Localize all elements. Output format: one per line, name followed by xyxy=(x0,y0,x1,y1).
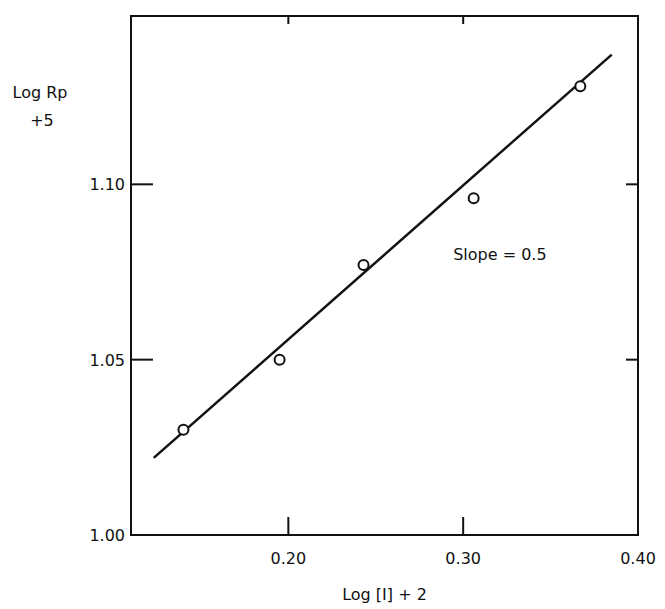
y-tick-label: 1.00 xyxy=(89,526,125,545)
data-point xyxy=(469,193,479,203)
chart: 0.200.300.401.001.051.10Slope = 0.5Log [… xyxy=(0,0,665,609)
x-tick-label: 0.20 xyxy=(271,549,307,568)
x-tick-label: 0.40 xyxy=(620,549,656,568)
slope-annotation: Slope = 0.5 xyxy=(453,245,546,264)
y-axis-label-line1: Log Rp xyxy=(13,83,68,102)
y-tick-label: 1.10 xyxy=(89,175,125,194)
x-axis-label: Log [I] + 2 xyxy=(342,585,427,604)
x-tick-label: 0.30 xyxy=(445,549,481,568)
data-point xyxy=(275,355,285,365)
plot-frame xyxy=(131,16,638,535)
data-point xyxy=(178,425,188,435)
y-tick-label: 1.05 xyxy=(89,351,125,370)
data-point xyxy=(359,260,369,270)
y-axis-label-line2: +5 xyxy=(30,111,54,130)
data-point xyxy=(575,81,585,91)
